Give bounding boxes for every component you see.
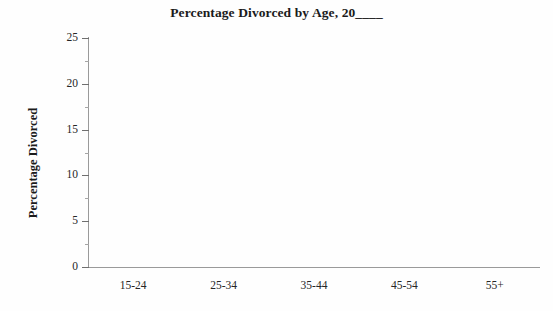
y-axis-tick-label: 0 [52, 260, 78, 272]
x-axis-category-label: 45-54 [364, 279, 444, 291]
y-axis-tick-label: 20 [52, 77, 78, 89]
y-axis-major-tick [82, 267, 89, 268]
chart-title: Percentage Divorced by Age, 20____ [0, 5, 553, 21]
x-axis-category-label: 15-24 [93, 279, 173, 291]
data-series-layer [88, 38, 540, 267]
y-axis-tick-label: 25 [52, 31, 78, 43]
y-axis-tick-label: 5 [52, 214, 78, 226]
y-axis-tick-label: 10 [52, 168, 78, 180]
y-axis-title-container: Percentage Divorced [22, 98, 44, 228]
chart-figure: Percentage Divorced by Age, 20____ Perce… [0, 0, 553, 311]
x-axis-category-label: 35-44 [274, 279, 354, 291]
x-axis-line [88, 267, 540, 268]
y-axis-tick-label: 15 [52, 123, 78, 135]
y-axis-title: Percentage Divorced [26, 108, 41, 218]
plot-area[interactable] [88, 38, 540, 267]
x-axis-category-label: 55+ [455, 279, 535, 291]
x-axis-category-label: 25-34 [184, 279, 264, 291]
